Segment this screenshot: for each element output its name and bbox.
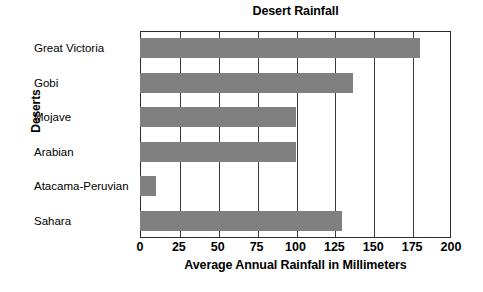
- x-axis-tick-label: 200: [441, 240, 462, 254]
- x-axis-tick-label: 25: [172, 240, 186, 254]
- y-axis-category-label: Atacama-Peruvian: [0, 176, 136, 196]
- plot-area: [140, 31, 451, 238]
- y-axis-category-label: Sahara: [0, 211, 136, 231]
- x-axis-tick-label: 50: [211, 240, 225, 254]
- bar-chart: Desert Rainfall Great VictoriaGobiMojave…: [0, 0, 483, 292]
- x-axis-tick-label: 100: [285, 240, 306, 254]
- gridline: [180, 32, 181, 237]
- gridline: [297, 32, 298, 237]
- x-axis-tick-label: 175: [402, 240, 423, 254]
- x-axis-tick-label: 150: [363, 240, 384, 254]
- y-axis-category-label: Great Victoria: [0, 38, 136, 58]
- chart-title: Desert Rainfall: [140, 4, 451, 18]
- x-axis-tick-label: 0: [137, 240, 144, 254]
- y-axis-category-labels: Great VictoriaGobiMojaveArabianAtacama-P…: [0, 31, 136, 238]
- y-axis-category-label: Arabian: [0, 142, 136, 162]
- x-axis-tick-label: 125: [324, 240, 345, 254]
- gridline: [219, 32, 220, 237]
- gridline: [258, 32, 259, 237]
- y-axis-title: Deserts: [29, 71, 43, 151]
- gridline: [374, 32, 375, 237]
- y-axis-category-label: Mojave: [0, 107, 136, 127]
- gridline: [335, 32, 336, 237]
- y-axis-category-label: Gobi: [0, 73, 136, 93]
- x-axis-tick-labels: 0255075100125150175200: [140, 240, 451, 258]
- gridline: [413, 32, 414, 237]
- x-axis-title: Average Annual Rainfall in Millimeters: [140, 258, 451, 272]
- x-axis-tick-label: 75: [250, 240, 264, 254]
